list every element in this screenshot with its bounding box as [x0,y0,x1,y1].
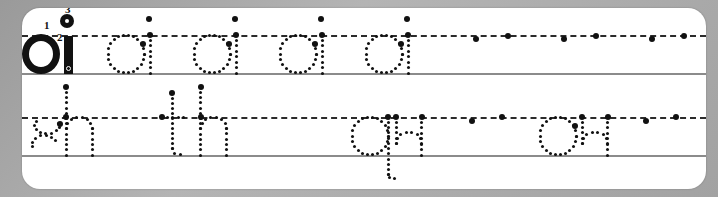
trace-dot [50,132,53,135]
trace-dot [602,133,605,136]
trace-dot [171,97,174,100]
trace-dot [31,141,34,144]
trace-dot [235,72,238,75]
trace-dot [596,131,599,134]
trace-dot [55,129,58,132]
trace-dot [581,142,584,145]
trace-dot [539,135,542,138]
trace-dot [177,116,180,119]
trace-dot [353,145,356,148]
trace-dot [228,47,231,50]
trace-dot [127,34,130,37]
trace-dot [171,116,174,119]
trace-dot [407,61,410,64]
trace-dot [294,34,297,37]
trace-dot [279,58,282,61]
trace-dot [574,140,577,143]
trace-dot [395,142,398,145]
trace-dot [387,137,390,140]
trace-dot [193,58,196,61]
trace-dot [367,42,370,45]
stroke-start-dot [385,114,391,120]
stroke-start-dot [673,114,679,120]
trace-dot [203,70,206,73]
trace-dot [39,134,42,137]
trace-dot [208,34,211,37]
trace-dot [132,35,135,38]
trace-dot [410,131,413,134]
trace-dot [606,126,609,129]
trace-dot [235,61,238,64]
trace-dot [235,44,238,47]
trace-dot [171,142,174,145]
trace-dot [539,140,542,143]
trace-dot [91,138,94,141]
trace-dot [220,118,223,121]
trace-dot [149,50,152,53]
model-o-glyph [22,34,60,74]
trace-dot [107,47,110,50]
trace-dot [351,140,354,143]
trace-dot [407,72,410,75]
trace-dot [541,145,544,148]
trace-dot [541,124,544,127]
trace-dot [225,138,228,141]
trace-dot [393,177,396,180]
trace-dot [199,127,202,130]
stroke-start-dot [169,90,175,96]
model-i-start-marker [66,66,71,71]
trace-dot [365,47,368,50]
trace-dot [396,137,399,140]
trace-dot [65,101,68,104]
stroke-start-dot [419,114,425,120]
trace-dot [568,120,571,123]
trace-dot [390,70,393,73]
stroke-start-dot [232,16,238,22]
trace-dot [407,55,410,58]
trace-dot [308,38,311,41]
trace-dot [66,122,69,125]
trace-dot [235,55,238,58]
trace-dot [564,152,567,155]
trace-dot [398,63,401,66]
trace-dot [321,55,324,58]
trace-dot [75,116,78,119]
trace-dot [215,116,218,119]
stroke-start-dot [505,33,511,39]
trace-dot [581,121,584,124]
trace-dot [568,149,571,152]
trace-dot [371,116,374,119]
trace-dot [65,148,68,151]
trace-dot [299,34,302,37]
trace-dot [171,147,174,150]
stroke-start-dot [499,114,505,120]
trace-dot [387,121,390,124]
trace-dot [554,116,557,119]
trace-dot [225,143,228,146]
trace-dot [113,67,116,70]
trace-dot [204,118,207,121]
trace-dot [142,47,145,50]
trace-dot [351,135,354,138]
trace-dot [581,126,584,129]
trace-dot [394,67,397,70]
trace-dot [376,152,379,155]
trace-dot [166,116,169,119]
trace-dot [304,35,307,38]
trace-dot [109,42,112,45]
trace-dot [304,70,307,73]
stroke-start-dot [57,121,63,127]
trace-dot [361,152,364,155]
trace-dot [149,61,152,64]
trace-dot [572,145,575,148]
trace-dot [195,63,198,66]
model-i-dot [60,14,74,28]
trace-dot [45,134,48,137]
trace-dot [420,121,423,124]
trace-dot [140,63,143,66]
trace-dot [285,67,288,70]
trace-dot [390,35,393,38]
trace-dot [574,129,577,132]
trace-dot [117,70,120,73]
trace-dot [149,39,152,42]
